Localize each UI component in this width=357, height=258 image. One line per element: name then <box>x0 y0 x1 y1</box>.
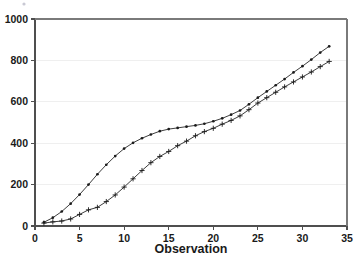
data-point-marker <box>212 120 215 123</box>
scan-artifact-speck <box>22 2 25 5</box>
data-point-marker <box>167 128 170 131</box>
data-point-marker <box>176 127 179 130</box>
data-point-marker <box>69 202 72 205</box>
x-axis-tick-label: 5 <box>77 232 83 244</box>
data-point-marker <box>283 78 286 81</box>
chart-container: 02004006008001000 05101520253035 Observa… <box>0 0 357 258</box>
y-axis-tick-label: 800 <box>10 54 28 66</box>
data-point-marker <box>132 141 135 144</box>
x-axis-tick-label: 25 <box>252 232 264 244</box>
x-axis-tick-label: 10 <box>118 232 130 244</box>
x-axis-tick-label: 35 <box>341 232 353 244</box>
data-point-marker <box>239 109 242 112</box>
y-axis-tick-label: 200 <box>10 178 28 190</box>
data-point-marker <box>257 96 260 99</box>
data-point-marker <box>150 133 153 136</box>
data-point-marker <box>319 51 322 54</box>
x-axis-tick-label: 30 <box>297 232 309 244</box>
y-axis-tick-label: 1000 <box>5 13 29 25</box>
data-point-marker <box>194 124 197 127</box>
data-point-marker <box>310 58 313 61</box>
data-point-marker <box>203 122 206 125</box>
data-point-marker <box>60 210 63 213</box>
data-point-marker <box>265 90 268 93</box>
data-point-marker <box>185 125 188 128</box>
data-point-marker <box>301 65 304 68</box>
data-point-marker <box>221 117 224 120</box>
data-point-marker <box>123 147 126 150</box>
data-point-marker <box>78 193 81 196</box>
x-axis-title: Observation <box>155 242 228 256</box>
data-point-marker <box>87 183 90 186</box>
data-point-marker <box>248 103 251 106</box>
data-point-marker <box>328 45 331 48</box>
x-axis-tick-label: 0 <box>32 232 38 244</box>
data-point-marker <box>105 163 108 166</box>
data-point-marker <box>230 113 233 116</box>
data-point-marker <box>274 84 277 87</box>
observation-line-chart: 02004006008001000 05101520253035 Observa… <box>0 0 357 258</box>
data-point-marker <box>158 130 161 133</box>
y-axis-tick-label: 600 <box>10 95 28 107</box>
data-point-marker <box>114 155 117 158</box>
data-point-marker <box>51 216 54 219</box>
data-point-marker <box>292 71 295 74</box>
chart-background <box>0 0 357 258</box>
y-axis-tick-label: 0 <box>22 220 28 232</box>
data-point-marker <box>141 137 144 140</box>
data-point-marker <box>96 173 99 176</box>
y-axis-tick-label: 400 <box>10 137 28 149</box>
